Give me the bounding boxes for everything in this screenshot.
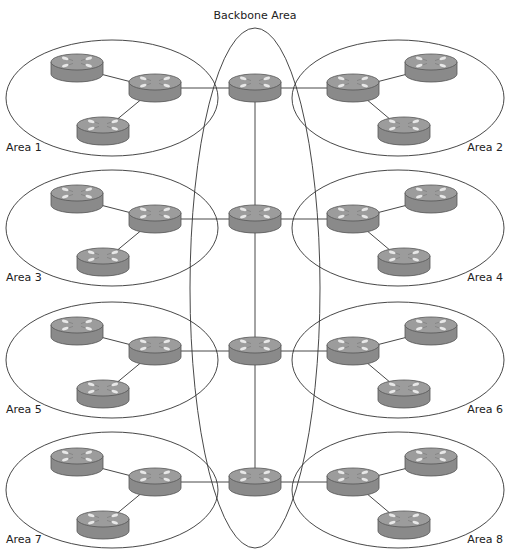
area-1-router-icon [77,117,129,145]
area-6-router-icon [405,317,457,345]
backbone-router-icon [229,468,281,496]
area-2-router-icon [405,54,457,82]
backbone-router-icon [229,74,281,102]
router-top [327,74,379,90]
router-top [77,248,129,264]
router-top [327,205,379,221]
area-3-router-icon [77,248,129,276]
backbone-router-icon [229,337,281,365]
router-top [378,380,430,396]
router-top [405,185,457,201]
area-1-label: Area 1 [6,141,42,154]
area-4-border-router-icon [327,205,379,233]
router-top [77,380,129,396]
area-3-border-router-icon [129,205,181,233]
area-8-router-icon [378,511,430,539]
area-5-router-icon [77,380,129,408]
area-3-label: Area 3 [6,271,42,284]
backbone-area-label: Backbone Area [214,9,297,22]
area-5-border-router-icon [129,337,181,365]
router-top [51,317,103,333]
router-top [327,468,379,484]
router-top [229,468,281,484]
area-3-router-icon [51,185,103,213]
router-top [129,74,181,90]
area-6-router-icon [378,380,430,408]
area-1-router-icon [51,54,103,82]
router-top [405,317,457,333]
router-top [51,54,103,70]
area-7-router-icon [77,511,129,539]
router-top [229,337,281,353]
area-4-label: Area 4 [467,271,503,284]
routers-layer [51,54,457,539]
area-4-router-icon [378,248,430,276]
area-2-router-icon [378,117,430,145]
area-5-label: Area 5 [6,403,42,416]
area-8-border-router-icon [327,468,379,496]
area-7-label: Area 7 [6,533,42,546]
area-2-label: Area 2 [467,141,503,154]
router-top [378,248,430,264]
router-top [378,117,430,133]
ospf-area-diagram: Backbone Area Area 1Area 2Area 3Area 4Ar… [0,0,510,559]
area-5-router-icon [51,317,103,345]
area-4-router-icon [405,185,457,213]
router-top [51,448,103,464]
router-top [405,448,457,464]
router-top [378,511,430,527]
router-top [229,205,281,221]
router-top [129,468,181,484]
backbone-router-icon [229,205,281,233]
area-8-router-icon [405,448,457,476]
area-7-router-icon [51,448,103,476]
area-7-border-router-icon [129,468,181,496]
router-top [327,337,379,353]
router-top [405,54,457,70]
area-6-border-router-icon [327,337,379,365]
router-top [77,117,129,133]
area-2-border-router-icon [327,74,379,102]
area-8-label: Area 8 [467,533,503,546]
router-top [51,185,103,201]
router-top [229,74,281,90]
area-1-border-router-icon [129,74,181,102]
router-top [129,337,181,353]
router-top [77,511,129,527]
area-6-label: Area 6 [467,403,503,416]
router-top [129,205,181,221]
